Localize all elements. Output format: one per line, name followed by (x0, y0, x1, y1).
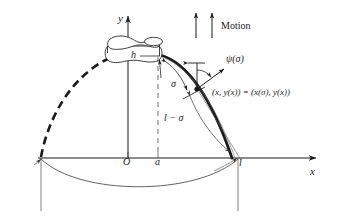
origin-label: O (123, 157, 130, 167)
bobbin-end-cap (145, 37, 163, 45)
catenary-solid-path (160, 55, 232, 158)
figure-root: y x O a l h σ l − σ ψ(σ) (x, y(x)) = (x(… (0, 0, 339, 220)
chord-line (199, 92, 241, 160)
x-axis-label: x (310, 166, 315, 177)
height-h-label: h (131, 50, 136, 60)
catenary-solid-inner-edge (162, 57, 235, 158)
point-coordinates-label: (x, y(x)) = (x(σ), y(x)) (212, 88, 290, 97)
sigma-arc-path (166, 62, 187, 90)
l-minus-sigma-label: l − σ (164, 113, 183, 123)
length-l-label: l (239, 158, 242, 168)
psi-angle-group (197, 69, 224, 89)
motion-arrows (196, 13, 212, 38)
lower-sag-arc (41, 159, 238, 187)
psi-angle-label: ψ(σ) (226, 54, 244, 64)
tangent-direction-arrow (197, 69, 224, 89)
left-endpoint-hook-path (34, 159, 41, 165)
left-endpoint-hook (34, 159, 41, 165)
sigma-label: σ (171, 79, 176, 89)
tangent-start-arrow (160, 60, 162, 78)
sigma-arc-arrow (166, 62, 187, 90)
point-a-label: a (155, 157, 160, 167)
motion-label: Motion (221, 21, 250, 31)
chord-to-endpoint (199, 92, 241, 160)
lower-sag-arc-path (41, 159, 238, 187)
endpoint-drop-lines (41, 158, 238, 211)
y-axis-label: y (118, 13, 123, 24)
catenary-solid-branch (160, 55, 235, 158)
catenary-dashed-branch (41, 57, 112, 157)
endpoint-hook-path (214, 158, 237, 171)
catenary-dashed-path (41, 57, 112, 157)
diagram-canvas (0, 0, 339, 220)
psi-angle-arc (197, 70, 211, 77)
tangent-start-arrow-line (160, 60, 162, 78)
x-axis-ticks (128, 152, 158, 158)
endpoint-hook-arc (214, 158, 237, 171)
